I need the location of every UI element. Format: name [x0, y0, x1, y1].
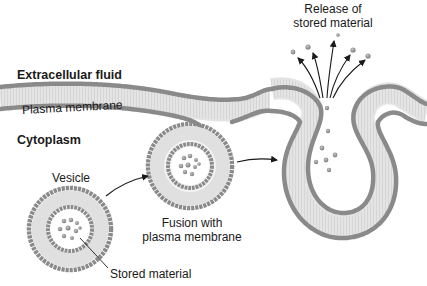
cytoplasm-label: Cytoplasm	[17, 133, 81, 147]
fusion-label-line1: Fusion with	[140, 216, 244, 230]
release-label-line1: Release of	[283, 2, 383, 16]
extracellular-fluid-label: Extracellular fluid	[17, 68, 122, 82]
fusion-label: Fusion with plasma membrane	[140, 216, 244, 244]
fusing-vesicle	[148, 124, 232, 208]
exocytosis-diagram: Extracellular fluid Plasma membrane Cyto…	[0, 0, 427, 286]
stored-material-label: Stored material	[110, 267, 191, 281]
vesicle-label: Vesicle	[52, 171, 90, 185]
fusion-label-line2: plasma membrane	[140, 230, 244, 244]
release-label-line2: stored material	[283, 16, 383, 30]
release-label: Release of stored material	[283, 2, 383, 30]
